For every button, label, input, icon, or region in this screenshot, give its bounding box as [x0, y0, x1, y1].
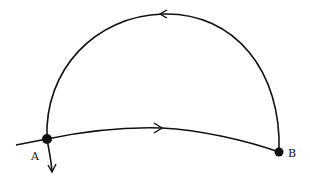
lower-curve-path	[16, 128, 279, 152]
upper-arc-path	[47, 14, 279, 152]
diagram-canvas: A B	[0, 0, 310, 177]
point-b-dot	[275, 148, 284, 157]
point-a-dot	[42, 134, 52, 144]
point-b-label: B	[288, 148, 296, 159]
diagram-svg	[0, 0, 310, 177]
point-a-label: A	[31, 151, 39, 162]
